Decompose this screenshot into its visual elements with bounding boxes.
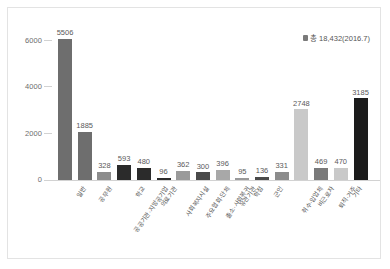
bar[interactable] [78,132,92,180]
bar-group: 1885 [78,26,92,180]
bars-container: 5506188532859348096362300396951363312748… [55,26,375,180]
y-tick-mark-4000 [44,86,52,87]
bar[interactable] [334,168,348,180]
bar-group: 470 [334,26,348,180]
x-axis-label: 학교 [133,184,147,199]
bar-value-label: 480 [129,157,159,166]
bar[interactable] [58,39,72,180]
bar[interactable] [196,172,210,180]
chart-card: 6000 4000 2000 0 총 18,432(2016.7) 550618… [7,7,381,259]
bar-value-label: 3185 [346,88,376,97]
bar-value-label: 470 [326,157,356,166]
bar[interactable] [176,171,190,180]
bar-value-label: 331 [267,161,297,170]
x-axis-label: 군인 [271,184,285,199]
y-tick-label-2000: 2000 [8,129,42,138]
bar-group: 396 [216,26,230,180]
y-tick-label-4000: 4000 [8,82,42,91]
bar-value-label: 2748 [286,99,316,108]
y-tick-mark-2000 [44,133,52,134]
bar[interactable] [97,172,111,180]
x-axis-line [44,180,380,181]
bar-group: 136 [255,26,269,180]
bar-group: 95 [235,26,249,180]
bar-value-label: 5506 [50,28,80,37]
y-tick-label-6000: 6000 [8,36,42,45]
bar[interactable] [117,165,131,180]
x-axis-labels: 일반공무원공공기관·지방공기업학교의료기관사회복지시설주요협회·단체출소·사회복… [55,182,375,258]
bar-group: 96 [157,26,171,180]
bar-group: 480 [137,26,151,180]
x-axis-label: 공무원 [96,184,114,204]
bar-group: 5506 [58,26,72,180]
bar-value-label: 1885 [70,121,100,130]
x-axis-label: 일반 [74,184,88,199]
y-tick-label-0: 0 [8,175,42,184]
bar-group: 300 [196,26,210,180]
bar-chart: 6000 4000 2000 0 총 18,432(2016.7) 550618… [8,8,382,260]
bar[interactable] [294,109,308,180]
bar[interactable] [314,168,328,180]
bar-group: 3185 [354,26,368,180]
bar-group: 362 [176,26,190,180]
bar[interactable] [354,98,368,180]
bar[interactable] [275,172,289,180]
y-tick-mark-6000 [44,40,52,41]
